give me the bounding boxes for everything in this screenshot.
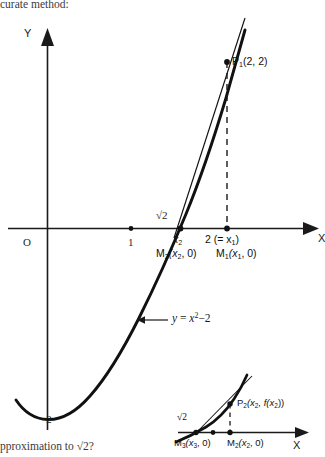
inset-point-label-m2-close: , 0) bbox=[250, 437, 264, 448]
y-axis-label: Y bbox=[24, 28, 31, 39]
inset-point-label-m3: M3(x3, 0) bbox=[174, 438, 211, 448]
tangent-line-at-p1 bbox=[174, 18, 245, 238]
inset-point-label-p2: P2(x2, f(x2)) bbox=[237, 398, 284, 408]
inset-point-label-p2-sub-a: 2 bbox=[255, 402, 259, 409]
inset-point-marker-aux bbox=[211, 430, 216, 435]
curve-equation-label: y = x2−2 bbox=[172, 313, 211, 325]
curve-equation-tail: −2 bbox=[198, 312, 210, 324]
point-marker-one bbox=[129, 226, 134, 231]
inset-point-label-p2-mid: , f(x bbox=[258, 397, 274, 408]
curve-equation-exponent: 2 bbox=[194, 311, 198, 320]
inset-point-label-m3-close: , 0) bbox=[197, 437, 211, 448]
inset-point-label-m2: M2(x2, 0) bbox=[227, 438, 264, 448]
sqrt2-label-main: √2 bbox=[156, 210, 168, 221]
caption-bottom-text: pproximation to √2? bbox=[0, 441, 94, 453]
inset-x-axis-label: X bbox=[293, 440, 300, 451]
newton-method-figure: curate method: pproximation to √2? Y X O… bbox=[0, 0, 325, 457]
point-label-m2: M2(x2, 0) bbox=[156, 248, 197, 259]
inset-x-axis-arrowhead bbox=[295, 427, 309, 438]
point-label-p1-name: P bbox=[232, 55, 239, 67]
parabola-curve bbox=[16, 30, 245, 420]
point-label-m1-close: , 0) bbox=[241, 247, 256, 259]
point-marker-p1 bbox=[224, 59, 230, 65]
tick-label-x1-sub: 1 bbox=[232, 239, 236, 247]
figure-canvas bbox=[0, 0, 325, 457]
tick-label-x2-sub: 2 bbox=[178, 239, 182, 247]
inset-point-label-p2-sub: 2 bbox=[243, 402, 247, 409]
tick-label-x1-suffix: ) bbox=[236, 233, 240, 245]
inset-point-marker-p2 bbox=[227, 401, 232, 406]
tick-label-x2: x2 bbox=[173, 234, 182, 245]
point-label-m1-arg-sub: 1 bbox=[237, 253, 241, 261]
x-axis-arrowhead bbox=[303, 222, 319, 235]
inset-point-label-m2-sub: 2 bbox=[235, 442, 239, 449]
inset-point-label-m2-arg-sub: 2 bbox=[246, 442, 250, 449]
inset-point-label-m3-sub: 3 bbox=[182, 442, 186, 449]
inset-point-label-m3-arg-sub: 3 bbox=[193, 442, 197, 449]
point-label-m2-close: , 0) bbox=[181, 247, 196, 259]
inset-point-label-p2-sub-b: 2 bbox=[274, 402, 278, 409]
origin-label: O bbox=[23, 237, 31, 248]
point-marker-m2 bbox=[178, 226, 184, 232]
point-label-m2-sub: 2 bbox=[165, 253, 169, 261]
curve-equation-eq: = bbox=[177, 312, 189, 324]
x-axis-label: X bbox=[318, 233, 325, 244]
point-marker-m1 bbox=[224, 226, 230, 232]
point-label-p1-sub: 1 bbox=[239, 61, 243, 69]
tick-label-x1: 2 (= x1) bbox=[205, 234, 239, 245]
inset-point-label-p2-close: )) bbox=[278, 397, 284, 408]
point-label-p1: P1(2, 2) bbox=[232, 56, 268, 67]
tick-label-one: 1 bbox=[128, 237, 134, 248]
inset-sqrt2-label: √2 bbox=[177, 413, 187, 423]
point-label-m2-name: M bbox=[156, 247, 165, 259]
inset-point-label-m3-name: M bbox=[174, 437, 182, 448]
point-label-m1: M1(x1, 0) bbox=[216, 248, 257, 259]
inset-point-label-m2-name: M bbox=[227, 437, 235, 448]
point-label-m2-arg-sub: 2 bbox=[177, 253, 181, 261]
y-axis-arrowhead bbox=[41, 28, 54, 46]
tick-label-neg-two: −2 bbox=[40, 414, 52, 425]
caption-top-text: curate method: bbox=[0, 0, 69, 11]
point-label-p1-coords: (2, 2) bbox=[243, 55, 268, 67]
inset-point-marker-m2 bbox=[227, 430, 232, 435]
inset-point-label-p2-open: (x bbox=[247, 397, 255, 408]
inset-point-marker-m3 bbox=[193, 430, 198, 435]
tick-label-x1-prefix: 2 (= x bbox=[205, 233, 232, 245]
point-label-m1-name: M bbox=[216, 247, 225, 259]
point-label-m1-sub: 1 bbox=[225, 253, 229, 261]
